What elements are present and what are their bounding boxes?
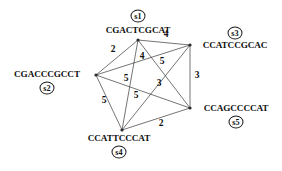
edge-weight-label: 2 <box>159 119 164 129</box>
graph-edge <box>138 40 190 45</box>
node-sequence-s3: CCATCCGCAC <box>203 41 268 50</box>
edge-weight-label: 5 <box>160 57 165 67</box>
node-id-badge-s3: s3 <box>228 27 243 40</box>
edge-weight-label: 5 <box>124 74 129 84</box>
edge-weight-label: 2 <box>111 45 116 55</box>
graph-node-s5 <box>188 106 191 109</box>
graph-edge <box>138 40 190 108</box>
node-sequence-s4: CCATTCCCAT <box>88 134 150 143</box>
graph-edge <box>96 40 138 75</box>
edge-weight-label: 3 <box>157 79 162 89</box>
graph-edge <box>122 108 190 130</box>
edge-weight-label: 3 <box>195 71 200 81</box>
graph-edge <box>96 75 190 108</box>
graph-node-s1 <box>136 38 139 41</box>
node-id-badge-s4: s4 <box>112 146 127 159</box>
node-sequence-s5: CCAGCCCCAT <box>204 104 269 113</box>
node-sequence-s2: CGACCCGCCT <box>14 70 80 79</box>
graph-node-s4 <box>120 128 123 131</box>
edge-weight-label: 4 <box>140 52 145 62</box>
graph-figure: 2445555332CGACTCGCATs1CGACCCGCCTs2CCATCC… <box>0 0 282 171</box>
node-id-badge-s1: s1 <box>131 10 146 23</box>
node-id-badge-s2: s2 <box>40 82 55 95</box>
node-id-badge-s5: s5 <box>229 116 244 129</box>
edge-weight-label: 5 <box>102 96 107 106</box>
graph-node-s3 <box>188 43 191 46</box>
graph-edge <box>96 75 122 130</box>
graph-node-s2 <box>94 73 97 76</box>
node-sequence-s1: CGACTCGCAT <box>106 26 171 35</box>
edge-weight-label: 5 <box>134 91 139 101</box>
